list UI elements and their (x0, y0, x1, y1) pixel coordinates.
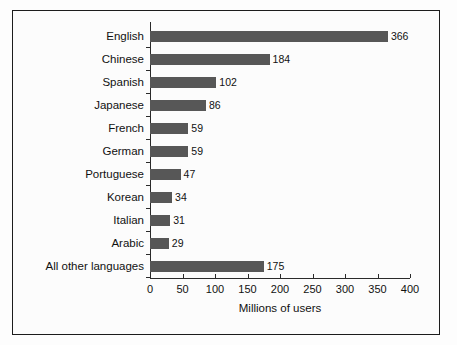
bar-value-label: 29 (169, 232, 184, 255)
category-label: Portuguese (85, 163, 150, 186)
bar[interactable] (150, 146, 188, 157)
bar-value-label: 59 (188, 140, 203, 163)
x-axis-tick-label: 50 (176, 283, 188, 295)
bar[interactable] (150, 77, 216, 88)
category-label: Chinese (102, 48, 150, 71)
bar-row: Japanese86 (0, 94, 457, 117)
x-axis-tick (183, 274, 184, 278)
category-label: Spanish (102, 71, 150, 94)
category-label: Italian (113, 209, 150, 232)
bar[interactable] (150, 31, 388, 42)
bar-row: Chinese184 (0, 48, 457, 71)
bar-value-label: 59 (188, 117, 203, 140)
x-axis-tick (215, 274, 216, 278)
bar[interactable] (150, 261, 264, 272)
bar-row: Arabic29 (0, 232, 457, 255)
bar-row: Spanish102 (0, 71, 457, 94)
x-axis-tick (150, 274, 151, 278)
category-label: French (108, 117, 150, 140)
x-axis-tick-label: 0 (147, 283, 153, 295)
x-axis-tick-label: 400 (401, 283, 419, 295)
bar-row: German59 (0, 140, 457, 163)
bar[interactable] (150, 215, 170, 226)
x-axis-line (150, 278, 410, 279)
x-axis-tick-label: 300 (336, 283, 354, 295)
category-label: Korean (107, 186, 150, 209)
bar-row: French59 (0, 117, 457, 140)
bar-value-label: 175 (264, 255, 285, 278)
bar[interactable] (150, 100, 206, 111)
bar[interactable] (150, 192, 172, 203)
bar-value-label: 86 (206, 94, 221, 117)
bar-value-label: 184 (270, 48, 291, 71)
x-axis-tick-label: 100 (206, 283, 224, 295)
bar-row: Portuguese47 (0, 163, 457, 186)
category-label: Japanese (94, 94, 150, 117)
bar-row: Italian31 (0, 209, 457, 232)
category-label: English (106, 25, 150, 48)
bar-chart-plot: English366Chinese184Spanish102Japanese86… (0, 0, 457, 345)
x-axis-tick (378, 274, 379, 278)
x-axis-tick-label: 350 (368, 283, 386, 295)
x-axis-tick (248, 274, 249, 278)
x-axis-tick-label: 250 (303, 283, 321, 295)
bar[interactable] (150, 54, 270, 65)
x-axis-tick (410, 274, 411, 278)
bar-row: English366 (0, 25, 457, 48)
bar[interactable] (150, 123, 188, 134)
bar-row: All other languages175 (0, 255, 457, 278)
bar-value-label: 31 (170, 209, 185, 232)
x-axis-tick (345, 274, 346, 278)
figure: English366Chinese184Spanish102Japanese86… (0, 0, 457, 345)
x-axis-tick-label: 150 (238, 283, 256, 295)
bar[interactable] (150, 169, 181, 180)
x-axis-tick (313, 274, 314, 278)
category-label: Arabic (111, 232, 150, 255)
bar-row: Korean34 (0, 186, 457, 209)
category-label: German (102, 140, 150, 163)
bar[interactable] (150, 238, 169, 249)
x-axis-tick-label: 200 (271, 283, 289, 295)
bar-value-label: 34 (172, 186, 187, 209)
bar-value-label: 366 (388, 25, 409, 48)
x-axis-tick (280, 274, 281, 278)
bar-value-label: 47 (181, 163, 196, 186)
category-label: All other languages (46, 255, 150, 278)
bar-value-label: 102 (216, 71, 237, 94)
x-axis-title: Millions of users (239, 302, 321, 314)
